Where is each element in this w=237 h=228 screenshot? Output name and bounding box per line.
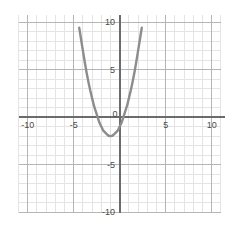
coordinate-plane-plot	[0, 0, 237, 228]
y-tick-label-neg-10: -10	[90, 207, 115, 217]
y-tick-label-10: 10	[90, 17, 115, 27]
x-tick-label-neg-10: -10	[21, 120, 34, 130]
parabola-graph-figure: -10 -5 0 5 10 10 5 -5 -10	[0, 0, 237, 228]
x-tick-label-10: 10	[207, 120, 217, 130]
x-tick-label-0: 0	[112, 109, 117, 119]
x-tick-label-5: 5	[163, 120, 168, 130]
y-tick-label-neg-5: -5	[90, 160, 115, 170]
x-tick-label-neg-5: -5	[70, 120, 78, 130]
y-tick-label-5: 5	[90, 65, 115, 75]
